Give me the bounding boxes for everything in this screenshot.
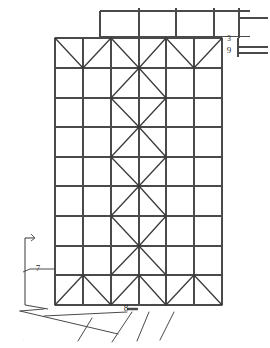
brace-center-d1-ul — [111, 68, 139, 98]
callout-label-9: 9 — [227, 45, 232, 55]
brace-top-3b — [194, 38, 222, 68]
brace-center-d1-ur — [139, 68, 166, 98]
brace-top-2b — [139, 38, 166, 68]
brace-center-d4-ul — [111, 246, 139, 275]
bottom-leader-bracket — [20, 309, 44, 311]
brace-center-d3-ll — [111, 216, 139, 246]
technical-drawing-canvas: 3 9 7 8 · — [0, 0, 270, 348]
brace-center-d4-ur — [139, 246, 166, 275]
brace-top-2a — [111, 38, 139, 68]
callout-label-7: 7 — [36, 263, 41, 273]
brace-center-d3-lr — [139, 216, 166, 246]
bottom-leader-5 — [160, 312, 174, 340]
panel-elevation-figure: 3 9 7 8 · — [0, 0, 270, 348]
brace-center-d1-lr — [139, 98, 166, 127]
bottom-leader-3 — [112, 312, 132, 342]
brace-center-d2-lr — [139, 157, 166, 186]
brace-bottom-2b — [139, 275, 166, 305]
brace-top-3a — [166, 38, 194, 68]
brace-bottom-1b — [83, 275, 111, 305]
brace-center-d2-ur — [139, 127, 166, 157]
brace-center-d2-ul — [111, 127, 139, 157]
bottom-leader-2 — [78, 318, 92, 341]
brace-center-d1-ll — [111, 98, 139, 127]
stray-mark: · — [23, 338, 25, 343]
callout-label-3: 3 — [227, 34, 231, 43]
bottom-leader-1 — [44, 312, 127, 316]
brace-center-d3-ur — [139, 186, 166, 216]
brace-bottom-3b — [194, 275, 222, 305]
brace-center-d2-ll — [111, 157, 139, 186]
bottom-leader-4 — [137, 312, 149, 341]
brace-top-1a — [55, 38, 83, 68]
brace-bottom-1a — [55, 275, 83, 305]
grid-vertical-lines — [55, 38, 222, 305]
top-band-group — [100, 8, 268, 38]
callout-label-8: 8 — [124, 303, 129, 313]
brace-bottom-2a — [111, 275, 139, 305]
right-stub-group — [238, 38, 268, 57]
brace-top-1b — [83, 38, 111, 68]
bottom-leader-lines — [20, 309, 174, 342]
brace-bottom-3a — [166, 275, 194, 305]
left-dimension-bottom-tick — [25, 305, 48, 309]
brace-center-d3-ul — [111, 186, 139, 216]
